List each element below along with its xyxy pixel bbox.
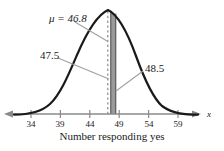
x-axis-variable-label: x <box>207 110 211 119</box>
x-axis-tick-label: 44 <box>80 120 100 129</box>
leader-lines <box>58 22 143 91</box>
lower-bound-annotation-label: 47.5 <box>40 50 59 61</box>
x-axis-left-arrowhead <box>4 110 13 117</box>
x-axis-tick-label: 39 <box>50 120 70 129</box>
figure-caption: Number responding yes <box>0 130 224 142</box>
shaded-region-fill <box>111 8 117 114</box>
normal-distribution-figure: μ = 46.8 47.5 48.5 x 34 39 44 49 54 59 N… <box>0 0 224 151</box>
upper-bound-annotation-label: 48.5 <box>145 63 164 74</box>
x-axis-tick-label: 59 <box>168 120 188 129</box>
x-axis-tick-label: 34 <box>21 120 41 129</box>
x-axis-tick-label: 54 <box>139 120 159 129</box>
mean-leader-line <box>75 22 107 41</box>
shaded-region <box>111 8 117 114</box>
upper-bound-leader-line <box>116 71 143 91</box>
mean-annotation-label: μ = 46.8 <box>49 13 87 24</box>
x-axis-tick-label: 49 <box>109 120 129 129</box>
lower-bound-leader-line <box>58 58 109 79</box>
normal-curve <box>14 10 198 115</box>
